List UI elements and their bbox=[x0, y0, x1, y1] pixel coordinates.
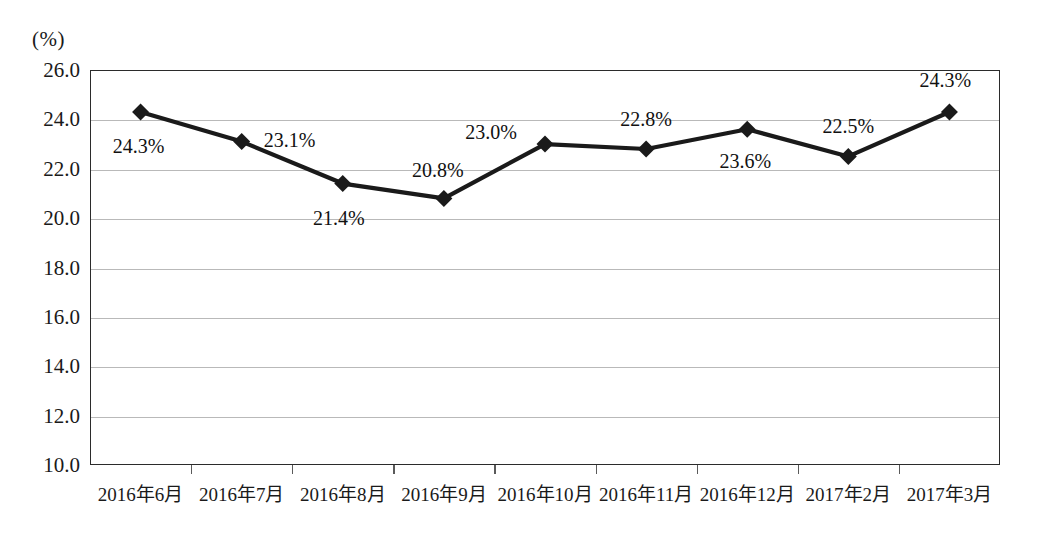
data-point-label: 24.3% bbox=[920, 68, 972, 91]
y-axis-unit-label: (%) bbox=[32, 27, 65, 52]
gridline bbox=[91, 367, 999, 368]
x-axis-tick-mark bbox=[292, 465, 293, 474]
data-point-label: 22.8% bbox=[620, 108, 672, 131]
data-point-label: 21.4% bbox=[313, 206, 365, 229]
data-point-label: 23.0% bbox=[465, 121, 517, 144]
gridline bbox=[91, 219, 999, 220]
line-chart: (%) 26.024.022.020.018.016.014.012.010.0… bbox=[0, 0, 1043, 537]
gridline bbox=[91, 269, 999, 270]
data-point-label: 20.8% bbox=[412, 159, 464, 182]
gridline bbox=[91, 170, 999, 171]
data-point-label: 22.5% bbox=[822, 115, 874, 138]
y-axis-tick-label: 20.0 bbox=[18, 206, 80, 231]
x-axis-tick-label: 2016年9月 bbox=[401, 479, 487, 506]
x-axis-tick-mark bbox=[191, 465, 192, 474]
data-point-label: 24.3% bbox=[113, 134, 165, 157]
y-axis-tick-label: 22.0 bbox=[18, 156, 80, 181]
x-axis-tick-mark bbox=[697, 465, 698, 474]
x-axis-tick-mark bbox=[899, 465, 900, 474]
x-axis-tick-label: 2016年12月 bbox=[700, 479, 795, 506]
y-axis-tick-label: 14.0 bbox=[18, 354, 80, 379]
x-axis-tick-label: 2016年10月 bbox=[498, 479, 593, 506]
y-axis-tick-label: 24.0 bbox=[18, 107, 80, 132]
y-axis-tick-label: 10.0 bbox=[18, 453, 80, 478]
x-axis-tick-mark bbox=[798, 465, 799, 474]
y-axis-tick-label: 16.0 bbox=[18, 304, 80, 329]
data-point-label: 23.1% bbox=[264, 128, 316, 151]
gridline bbox=[91, 417, 999, 418]
y-axis-tick-label: 12.0 bbox=[18, 403, 80, 428]
x-axis-tick-mark bbox=[393, 465, 394, 474]
x-axis-tick-mark bbox=[494, 465, 495, 474]
y-axis-tick-label: 18.0 bbox=[18, 255, 80, 280]
y-axis-tick-label: 26.0 bbox=[18, 58, 80, 83]
gridline bbox=[91, 318, 999, 319]
x-axis-tick-label: 2016年6月 bbox=[98, 479, 184, 506]
x-axis-tick-label: 2016年8月 bbox=[300, 479, 386, 506]
x-axis-tick-label: 2017年3月 bbox=[907, 479, 993, 506]
x-axis-tick-label: 2016年7月 bbox=[199, 479, 285, 506]
x-axis-tick-mark bbox=[596, 465, 597, 474]
x-axis-tick-label: 2017年2月 bbox=[806, 479, 892, 506]
data-point-label: 23.6% bbox=[719, 150, 771, 173]
x-axis-tick-label: 2016年11月 bbox=[599, 479, 693, 506]
